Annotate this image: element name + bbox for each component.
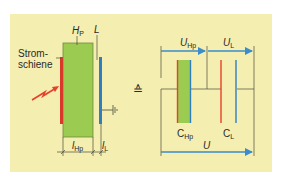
label-uhp: UHp xyxy=(180,38,196,49)
label-lhp: lHp xyxy=(72,141,83,152)
label-stromschiene-2: schiene xyxy=(18,60,52,70)
label-hp: HP xyxy=(72,26,84,37)
label-ul: UL xyxy=(223,38,234,49)
equivalence-symbol: ≙ xyxy=(133,84,143,96)
label-stromschiene-1: Strom- xyxy=(18,49,48,59)
busbar-strip xyxy=(60,57,63,124)
label-chp: CHp xyxy=(177,129,193,140)
capacitor-chp xyxy=(178,60,191,123)
lightning-arrow-icon xyxy=(32,86,59,100)
capacitor-cl xyxy=(221,60,236,123)
voltage-arrows xyxy=(161,51,252,152)
label-cl: CL xyxy=(223,129,234,140)
conductor-strip xyxy=(99,57,102,124)
insulation-block xyxy=(63,43,93,137)
label-l: L xyxy=(94,25,100,35)
label-ll: lL xyxy=(102,141,108,152)
label-u: U xyxy=(203,141,210,151)
ground-icon xyxy=(102,105,117,115)
